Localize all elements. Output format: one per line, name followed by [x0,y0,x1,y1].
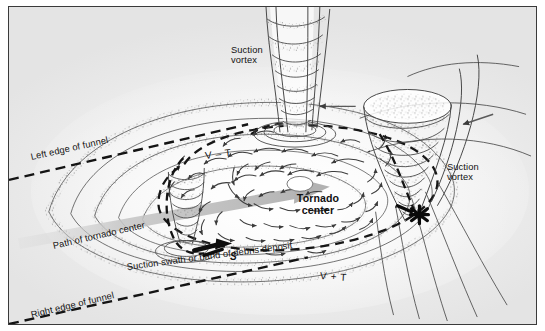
label-v-plus-t: V + T [320,270,348,283]
damage-point-asterisk [410,206,428,224]
label-tornado-center: Tornado center [281,193,355,217]
label-s-marker: S [230,251,237,262]
diagram-plate: Suction vortex Suction vortex Tornado ce… [8,6,537,325]
label-suction-vortex-right-line1: Suction [447,162,479,172]
label-suction-vortex-top-line2: vortex [231,55,263,65]
tornado-center-marker [287,176,313,191]
label-suction-vortex-right-line2: vortex [447,172,479,182]
label-suction-vortex-right: Suction vortex [447,162,479,183]
label-tornado-center-line2: center [281,205,355,217]
tornado-diagram-figure: Suction vortex Suction vortex Tornado ce… [0,0,545,331]
label-suction-vortex-top-line1: Suction [231,45,263,55]
label-suction-vortex-top: Suction vortex [231,45,263,66]
